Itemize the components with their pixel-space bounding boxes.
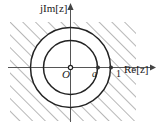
imaginary-axis-arrowhead bbox=[67, 3, 73, 10]
point-a-label: a bbox=[92, 69, 97, 79]
real-axis-arrowhead bbox=[150, 64, 156, 70]
complex-plane-figure: jIm[z] Re[z] O a 1 bbox=[0, 0, 157, 130]
point-unit-label: 1 bbox=[116, 69, 121, 79]
point-unit-dot bbox=[109, 66, 113, 70]
real-axis-label: Re[z] bbox=[124, 64, 148, 75]
imaginary-axis-label: jIm[z] bbox=[40, 3, 67, 14]
origin-label: O bbox=[62, 69, 70, 80]
